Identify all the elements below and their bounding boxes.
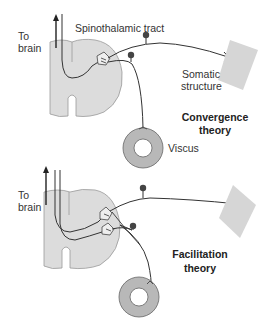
somatic-structure-bottom xyxy=(219,185,256,238)
convergence-panel xyxy=(50,14,258,168)
to-brain-label-top-1: To xyxy=(18,30,29,42)
somatic-structure-top xyxy=(218,40,258,90)
facilitation-theory-title-1: Facilitation xyxy=(160,248,240,260)
spinothalamic-tract-label: Spinothalamic tract xyxy=(75,22,164,34)
to-brain-label-bottom-1: To xyxy=(18,189,29,201)
somatic-structure-label-2: structure xyxy=(181,80,222,92)
somatic-structure-label-1: Somatic xyxy=(182,68,220,80)
convergence-theory-title-1: Convergence xyxy=(175,111,255,123)
facilitation-theory-title-2: theory xyxy=(160,262,240,274)
visceral-ganglion xyxy=(128,52,134,58)
convergence-theory-title-2: theory xyxy=(175,124,255,136)
facilitation-panel xyxy=(43,166,256,317)
to-brain-label-bottom-2: brain xyxy=(18,201,41,213)
to-brain-label-top-2: brain xyxy=(18,42,41,54)
viscus-label: Viscus xyxy=(168,142,199,154)
spinal-cord-top xyxy=(50,39,122,116)
